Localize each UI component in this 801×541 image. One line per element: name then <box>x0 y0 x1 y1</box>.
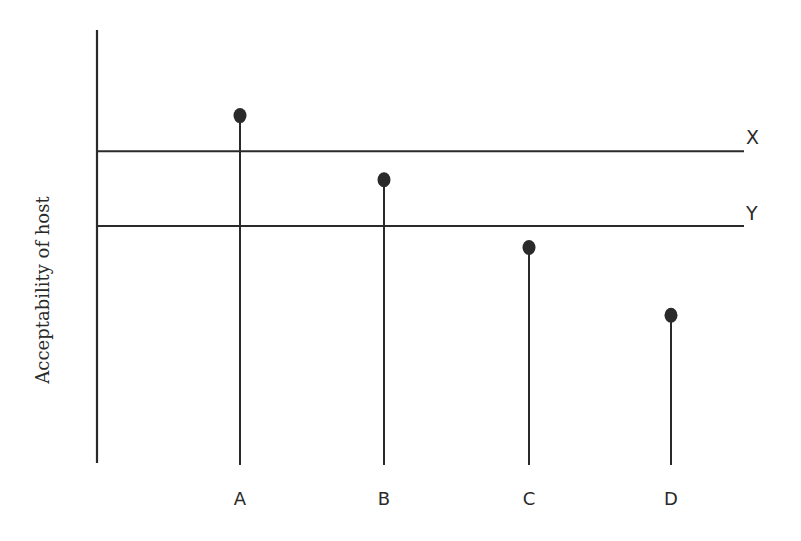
data-point-c <box>523 240 536 255</box>
data-point-a <box>234 108 247 123</box>
reference-line-y-label: Y <box>746 202 758 224</box>
data-point-d <box>665 308 678 323</box>
category-label-d: D <box>664 488 678 509</box>
category-label-a: A <box>234 488 246 509</box>
category-label-b: B <box>378 488 390 509</box>
data-point-b <box>378 172 391 187</box>
reference-line-x-label: X <box>746 126 759 148</box>
chart-canvas <box>0 0 801 541</box>
y-axis-label: Acceptability of host <box>32 196 53 383</box>
category-label-c: C <box>523 488 536 509</box>
